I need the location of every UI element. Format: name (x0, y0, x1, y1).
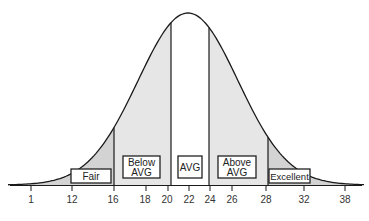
label-avg: AVG (178, 156, 202, 178)
tick-label-38: 38 (339, 194, 351, 205)
label-below-avg: Below AVG (123, 156, 160, 178)
label-excellent-text: Excellent (270, 171, 309, 182)
label-fair: Fair (71, 169, 111, 183)
region-left-tail (0, 0, 114, 185)
label-fair-text: Fair (82, 171, 100, 182)
tick-label-12: 12 (66, 194, 78, 205)
tick-label-24: 24 (204, 194, 216, 205)
tick-label-18: 18 (139, 194, 151, 205)
label-above-avg-line2: AVG (227, 167, 248, 178)
tick-label-26: 26 (226, 194, 238, 205)
tick-label-20: 20 (161, 194, 173, 205)
label-below-avg-line2: AVG (131, 167, 152, 178)
tick-label-22: 22 (183, 194, 195, 205)
tick-label-28: 28 (260, 194, 272, 205)
x-axis-tick-labels: 1 12 16 18 20 22 24 26 28 32 38 (28, 194, 351, 205)
tick-label-1: 1 (28, 194, 34, 205)
x-axis-ticks (31, 186, 345, 191)
label-excellent: Excellent (269, 169, 310, 183)
bell-curve-chart: 1 12 16 18 20 22 24 26 28 32 38 Fair Bel… (0, 0, 369, 221)
label-above-avg: Above AVG (218, 156, 256, 178)
tick-label-32: 32 (298, 194, 310, 205)
tick-label-16: 16 (107, 194, 119, 205)
label-avg-text: AVG (180, 162, 201, 173)
